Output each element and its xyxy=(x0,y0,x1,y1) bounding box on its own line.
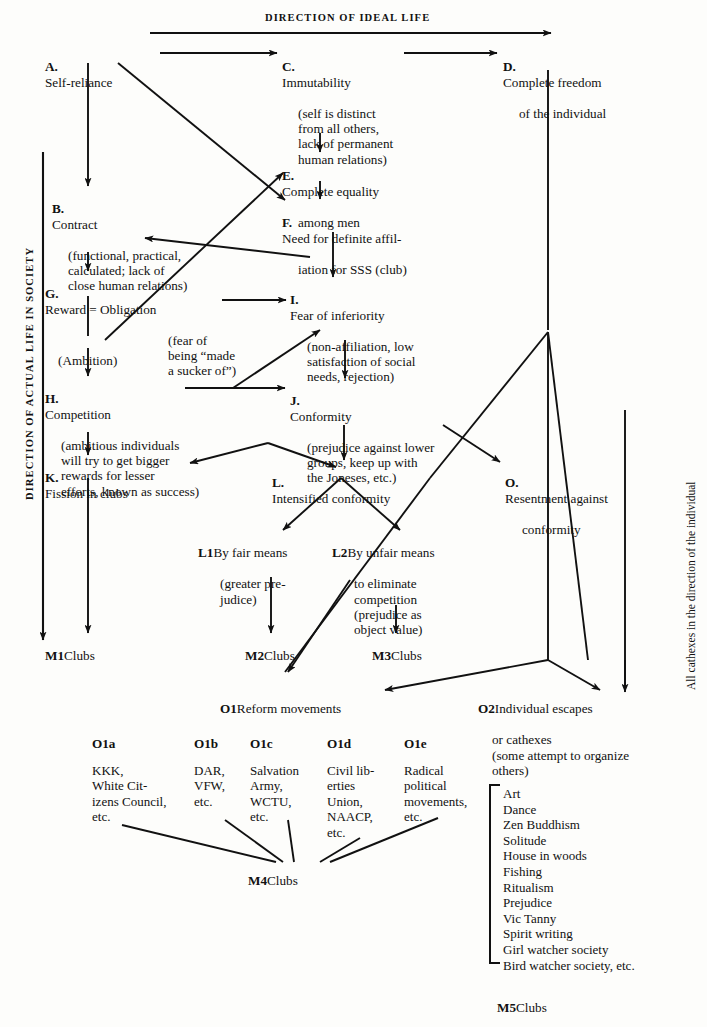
escape-list-bracket xyxy=(489,784,500,964)
node-L2-title: By unfair means xyxy=(347,545,434,560)
node-C-label: C. xyxy=(282,59,295,74)
node-I-title: Fear of inferiority xyxy=(290,308,384,323)
node-M2: M2Clubs xyxy=(245,633,295,664)
node-M1-title: Clubs xyxy=(64,648,95,663)
node-M3-title: Clubs xyxy=(391,648,422,663)
reform-col-code-0: O1a xyxy=(92,736,115,752)
node-E-title: Complete equality xyxy=(282,184,379,199)
node-L2-detail: to eliminate competition (prejudice as o… xyxy=(332,576,435,638)
diagram-canvas: DIRECTION OF IDEAL LIFE DIRECTION OF ACT… xyxy=(0,0,707,1027)
node-M3-label: M3 xyxy=(372,648,391,663)
node-L1-label: L1 xyxy=(198,545,213,560)
node-G-label: G. xyxy=(45,286,59,301)
node-J-label: J. xyxy=(290,393,300,408)
node-L2-label: L2 xyxy=(332,545,347,560)
axis-left-label: DIRECTION OF ACTUAL LIFE IN SOCIETY xyxy=(24,247,35,500)
node-A-title: Self-reliance xyxy=(45,75,112,90)
node-K-label: K. xyxy=(45,470,59,485)
node-F-label: F. xyxy=(282,215,292,230)
node-G-sub: (Ambition) xyxy=(58,338,117,369)
node-M1: M1Clubs xyxy=(45,633,95,664)
node-A: A. Self-reliance xyxy=(45,44,112,90)
node-O1-title: Reform movements xyxy=(237,701,341,716)
reform-col-code-2: O1c xyxy=(250,736,273,752)
node-D-label: D. xyxy=(503,59,516,74)
reform-col-items-3: Civil lib- erties Union, NAACP, etc. xyxy=(327,763,374,840)
axis-top-label: DIRECTION OF IDEAL LIFE xyxy=(265,12,430,23)
node-O-title: Resentment against xyxy=(505,491,608,506)
node-M2-title: Clubs xyxy=(264,648,295,663)
reform-col-code-3: O1d xyxy=(327,736,351,752)
node-L1-title: By fair means xyxy=(213,545,287,560)
node-M4: M4Clubs xyxy=(248,858,298,889)
node-C-title: Immutability xyxy=(282,75,351,90)
node-G-title: Reward = Obligation xyxy=(45,302,156,317)
node-F-title: Need for definite affil- xyxy=(282,231,402,246)
node-O2-label: O2 xyxy=(478,701,495,716)
node-B-label: B. xyxy=(52,201,64,216)
node-M5-label: M5 xyxy=(497,1000,516,1015)
node-M5-title: Clubs xyxy=(516,1000,547,1015)
node-M4-title: Clubs xyxy=(267,873,298,888)
node-I-label: I. xyxy=(290,292,298,307)
node-M5: M5Clubs xyxy=(497,985,547,1016)
node-D-detail: of the individual xyxy=(503,106,606,121)
reform-col-items-2: Salvation Army, WCTU, etc. xyxy=(250,763,299,825)
node-O1: O1Reform movements xyxy=(220,686,341,717)
node-H-label: H. xyxy=(45,391,59,406)
node-M3: M3Clubs xyxy=(372,633,422,664)
node-H-title: Competition xyxy=(45,407,111,422)
node-D-title: Complete freedom xyxy=(503,75,602,90)
node-L-label: L. xyxy=(272,475,284,490)
node-M4-label: M4 xyxy=(248,873,267,888)
node-A-label: A. xyxy=(45,59,58,74)
node-L-title: Intensified conformity xyxy=(272,491,390,506)
node-E-label: E. xyxy=(282,168,294,183)
node-M1-label: M1 xyxy=(45,648,64,663)
node-G-sub-title: (Ambition) xyxy=(58,353,117,368)
node-L1-detail: (greater pre- judice) xyxy=(198,576,287,607)
node-O2-title: Individual escapes xyxy=(495,701,593,716)
node-J-title: Conformity xyxy=(290,409,352,424)
node-O-label: O. xyxy=(505,475,519,490)
reform-col-items-1: DAR, VFW, etc. xyxy=(194,763,225,809)
node-L: L. Intensified conformity xyxy=(272,460,390,506)
node-M2-label: M2 xyxy=(245,648,264,663)
reform-col-code-1: O1b xyxy=(194,736,218,752)
node-O-detail: conformity xyxy=(505,522,608,537)
node-L1: L1By fair means (greater pre- judice) xyxy=(198,530,287,622)
node-O: O. Resentment against conformity xyxy=(505,460,608,552)
node-O2: O2Individual escapes or cathexes (some a… xyxy=(478,686,629,794)
node-B-title: Contract xyxy=(52,217,97,232)
node-K-title: Fission in clubs xyxy=(45,486,128,501)
reform-col-items-4: Radical political movements, etc. xyxy=(404,763,467,825)
node-F-detail: iation for SSS (club) xyxy=(282,262,407,277)
node-K: K. Fission in clubs xyxy=(45,455,128,501)
reform-col-code-4: O1e xyxy=(404,736,427,752)
reform-col-items-0: KKK, White Cit- izens Council, etc. xyxy=(92,763,166,825)
node-D: D. Complete freedom of the individual xyxy=(503,44,606,136)
node-O1-label: O1 xyxy=(220,701,237,716)
escape-list: Art Dance Zen Buddhism Solitude House in… xyxy=(503,786,635,973)
axis-right-label: All cathexes in the direction of the ind… xyxy=(685,481,697,690)
node-O2-detail: or cathexes (some attempt to organize ot… xyxy=(478,732,629,778)
